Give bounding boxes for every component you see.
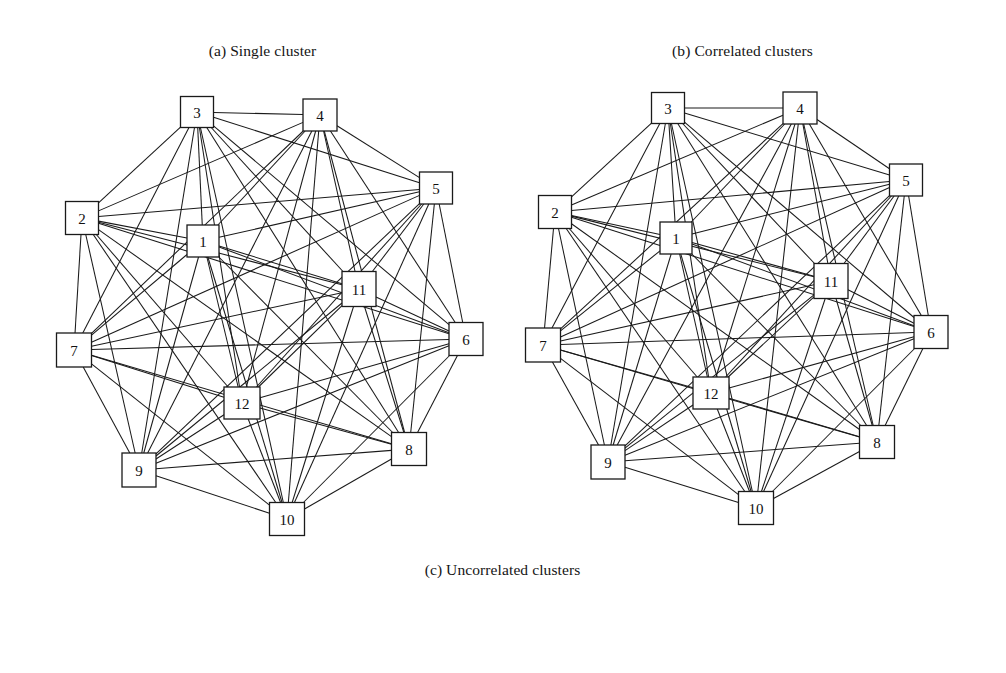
graph-edge [683, 124, 815, 264]
graph-edge [93, 235, 276, 503]
graph-edge [324, 131, 355, 272]
graph-edge [364, 307, 403, 433]
graph-node-4[interactable]: 4 [303, 99, 337, 131]
graph-edge [246, 131, 315, 387]
node-label: 5 [902, 173, 910, 189]
node-label: 11 [352, 282, 366, 298]
graph-node-1[interactable]: 1 [660, 222, 692, 254]
graph-node-3[interactable]: 3 [181, 97, 214, 128]
graph-node-7[interactable]: 7 [57, 333, 92, 367]
graph-node-9[interactable]: 9 [591, 445, 625, 479]
graph-svg-b: 123456789101112 [480, 0, 1006, 673]
node-label: 11 [824, 274, 838, 290]
graph-edge [99, 127, 181, 203]
graph-edge [803, 124, 828, 264]
graph-node-5[interactable]: 5 [890, 164, 923, 196]
graph-node-6[interactable]: 6 [914, 316, 948, 349]
graph-edge [439, 204, 463, 323]
node-label: 9 [604, 455, 612, 471]
node-label: 4 [316, 108, 324, 124]
graph-edge [142, 128, 195, 454]
graph-edge [885, 349, 923, 426]
graph-edge [848, 290, 914, 324]
graph-edge [305, 459, 392, 509]
graph-node-4[interactable]: 4 [783, 92, 817, 124]
node-label: 4 [796, 101, 804, 117]
graph-edge [625, 467, 739, 502]
graph-node-9[interactable]: 9 [122, 453, 156, 487]
node-label: 7 [539, 338, 547, 354]
graph-edge [844, 196, 894, 264]
graph-node-5[interactable]: 5 [420, 172, 453, 204]
node-label: 7 [70, 343, 78, 359]
graph-edge [156, 450, 392, 468]
graph-node-1[interactable]: 1 [187, 225, 219, 257]
graph-edge [92, 339, 450, 349]
graph-node-8[interactable]: 8 [860, 426, 895, 459]
graph-edge [572, 123, 652, 197]
graph-node-11[interactable]: 11 [342, 272, 376, 307]
graph-edge [83, 367, 130, 453]
node-label: 9 [135, 463, 143, 479]
graph-node-8[interactable]: 8 [392, 433, 427, 466]
graph-node-7[interactable]: 7 [526, 328, 561, 362]
graph-edge [552, 362, 598, 445]
graph-edge [75, 235, 81, 334]
node-label: 12 [704, 386, 719, 402]
graph-edge [572, 216, 815, 277]
graph-edge [303, 356, 449, 503]
node-label: 1 [199, 234, 207, 250]
graph-edge [625, 295, 814, 448]
node-label: 10 [749, 501, 764, 517]
graph-edge [99, 221, 188, 238]
node-label: 6 [462, 332, 470, 348]
graph-edge [372, 204, 423, 272]
graph-node-12[interactable]: 12 [693, 377, 729, 409]
graph-node-11[interactable]: 11 [814, 264, 848, 299]
graph-edge [92, 195, 420, 342]
graph-edge [572, 115, 784, 205]
graph-edge [613, 254, 671, 445]
node-label: 10 [280, 512, 295, 528]
graph-edge [156, 476, 270, 514]
graph-node-12[interactable]: 12 [224, 387, 260, 419]
graph-panel-correlated-clusters: 123456789101112 [480, 0, 1006, 673]
graph-node-10[interactable]: 10 [739, 492, 774, 525]
graph-edge [144, 257, 199, 453]
graph-panel-uncorrelated-clusters-clip: 1110 [0, 592, 1006, 673]
graph-node-2[interactable]: 2 [66, 202, 99, 235]
node-label: 12 [235, 396, 250, 412]
graph-edge [92, 293, 343, 347]
graph-edge [717, 409, 749, 492]
figure-root: (a) Single cluster (b) Correlated cluste… [0, 0, 1006, 673]
graph-edge [561, 251, 661, 331]
node-label: 3 [193, 105, 201, 121]
graph-edge [214, 112, 304, 114]
node-label: 8 [405, 442, 413, 458]
node-label: 2 [551, 205, 559, 221]
graph-node-10[interactable]: 10 [270, 503, 305, 536]
graph-edge [219, 246, 342, 284]
graph-edge [288, 131, 318, 503]
node-label: 3 [664, 101, 672, 117]
graph-edge [545, 229, 554, 329]
node-label: 2 [78, 211, 86, 227]
graph-edge [218, 131, 305, 225]
graph-node-2[interactable]: 2 [539, 196, 572, 229]
graph-edge [774, 452, 860, 499]
node-label: 6 [927, 325, 935, 341]
graph-edge [817, 120, 890, 169]
graph-node-3[interactable]: 3 [652, 93, 685, 124]
graph-edge [669, 124, 675, 223]
node-label: 8 [873, 435, 881, 451]
graph-edge [86, 235, 135, 454]
graph-edge [561, 350, 694, 388]
node-label: 1 [672, 231, 680, 247]
graph-edge [260, 408, 392, 444]
graph-edge [692, 244, 914, 326]
node-label: 5 [432, 181, 440, 197]
graph-edge [92, 356, 225, 398]
graph-edge [909, 196, 929, 316]
graph-node-6[interactable]: 6 [449, 323, 483, 356]
graph-edge [258, 306, 342, 387]
